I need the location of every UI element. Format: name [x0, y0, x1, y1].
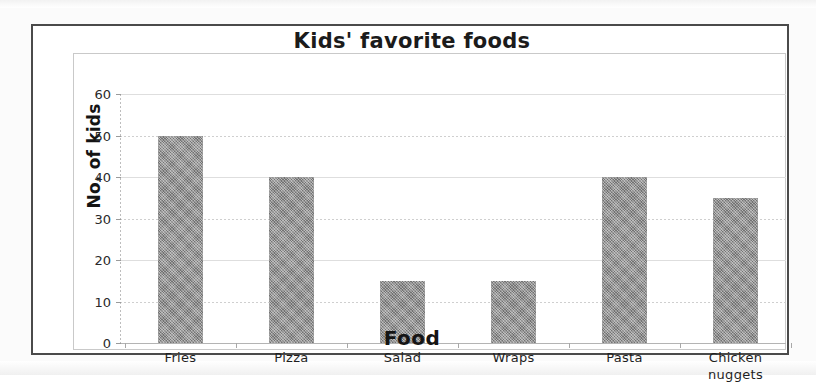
- y-tick-label-20: 20: [94, 253, 111, 268]
- x-category-label-line: Salad: [348, 349, 458, 366]
- x-category-label-fries: Fries: [126, 349, 236, 366]
- x-axis-title: Food: [33, 326, 791, 350]
- y-tick-label-40: 40: [94, 170, 111, 185]
- y-tick-label-30: 30: [94, 211, 111, 226]
- x-category-label-line: Chicken: [681, 349, 791, 366]
- x-category-label-line: nuggets: [681, 366, 791, 383]
- chart-frame: Kids' favorite foods No. of kids 0102030…: [31, 24, 789, 355]
- x-category-label-pizza: Pizza: [237, 349, 347, 366]
- x-category-label-pasta: Pasta: [570, 349, 680, 366]
- gridline-40: [120, 177, 786, 178]
- chart-title: Kids' favorite foods: [33, 29, 791, 53]
- y-tick-mark-30: [116, 219, 121, 220]
- y-tick-label-60: 60: [94, 87, 111, 102]
- x-category-label-line: Fries: [126, 349, 236, 366]
- gridline-10: [120, 302, 786, 303]
- x-category-label-line: Pizza: [237, 349, 347, 366]
- plot-area: 0102030405060 FriesPizzaSaladWrapsPastaC…: [120, 94, 786, 343]
- y-tick-mark-10: [116, 302, 121, 303]
- y-tick-mark-60: [116, 94, 121, 95]
- gridline-50: [120, 136, 786, 137]
- bar-pasta: [602, 177, 647, 343]
- y-tick-mark-20: [116, 260, 121, 261]
- x-category-label-line: Wraps: [459, 349, 569, 366]
- y-tick-label-10: 10: [94, 294, 111, 309]
- gridline-20: [120, 260, 786, 261]
- x-category-label-wraps: Wraps: [459, 349, 569, 366]
- y-tick-mark-50: [116, 136, 121, 137]
- y-tick-label-50: 50: [94, 128, 111, 143]
- gridline-30: [120, 219, 786, 220]
- bar-pizza: [269, 177, 314, 343]
- gridline-60: [120, 94, 786, 95]
- x-category-label-salad: Salad: [348, 349, 458, 366]
- bar-fries: [158, 136, 203, 344]
- x-tick-mark-5: [791, 343, 792, 348]
- y-tick-mark-40: [116, 177, 121, 178]
- x-category-label-chicken-nuggets: Chickennuggets: [681, 349, 791, 383]
- x-category-label-line: Pasta: [570, 349, 680, 366]
- scan-edge-top: [0, 0, 816, 8]
- bar-chicken-nuggets: [713, 198, 758, 343]
